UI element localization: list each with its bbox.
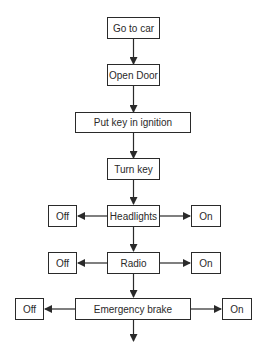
node-brake-on: On [222,298,252,320]
node-go-to-car: Go to car [107,17,160,39]
node-radio-on: On [191,252,221,274]
node-headlights-off: Off [48,205,77,227]
node-radio-off: Off [48,252,77,274]
node-headlights-on: On [191,205,221,227]
node-brake-off: Off [15,298,44,320]
node-open-door: Open Door [107,64,160,86]
node-radio: Radio [107,252,160,274]
node-put-key-in-ignition: Put key in ignition [75,112,191,133]
node-turn-key: Turn key [107,158,160,180]
node-emergency-brake: Emergency brake [75,298,191,320]
node-headlights: Headlights [107,205,160,227]
